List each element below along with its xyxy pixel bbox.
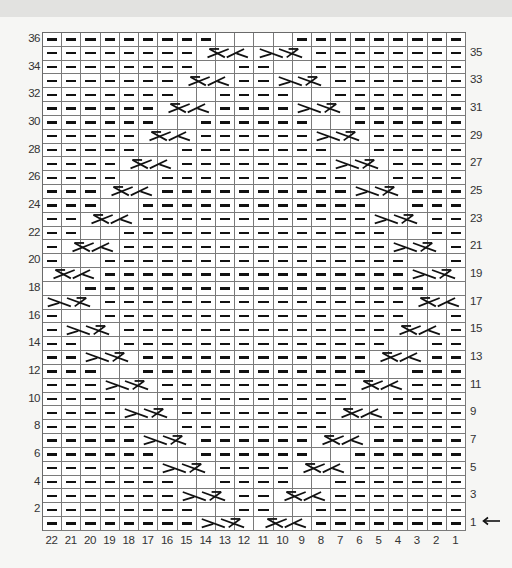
purl-cell xyxy=(120,227,139,241)
knit-cell xyxy=(370,171,389,185)
purl-cell xyxy=(331,365,350,379)
purl-cell xyxy=(139,351,158,365)
purl-cell xyxy=(101,74,120,88)
purl-cell xyxy=(120,254,139,268)
purl-cell xyxy=(331,517,350,531)
row-label: 33 xyxy=(470,73,482,85)
purl-cell xyxy=(389,420,408,434)
purl-cell xyxy=(312,199,331,213)
purl-cell xyxy=(158,337,177,351)
purl-cell xyxy=(447,47,466,61)
column-label: 1 xyxy=(446,534,465,546)
purl-cell xyxy=(254,310,273,324)
column-label: 13 xyxy=(215,534,234,546)
purl-cell xyxy=(254,144,273,158)
purl-cell xyxy=(370,61,389,75)
purl-cell xyxy=(235,420,254,434)
purl-cell xyxy=(370,282,389,296)
purl-cell xyxy=(62,88,81,102)
knit-cell xyxy=(408,310,427,324)
purl-cell xyxy=(178,503,197,517)
purl-cell xyxy=(43,310,62,324)
knit-cell xyxy=(197,503,216,517)
purl-cell xyxy=(293,420,312,434)
purl-cell xyxy=(62,517,81,531)
purl-cell xyxy=(43,337,62,351)
purl-cell xyxy=(120,61,139,75)
purl-cell xyxy=(293,171,312,185)
purl-cell xyxy=(370,47,389,61)
cable-right-cross-icon xyxy=(388,323,446,337)
purl-cell xyxy=(101,503,120,517)
knit-cell xyxy=(293,503,312,517)
column-label: 6 xyxy=(350,534,369,546)
purl-cell xyxy=(197,434,216,448)
purl-cell xyxy=(447,489,466,503)
purl-cell xyxy=(178,337,197,351)
purl-cell xyxy=(274,254,293,268)
purl-cell xyxy=(158,240,177,254)
purl-cell xyxy=(120,337,139,351)
purl-cell xyxy=(254,503,273,517)
purl-cell xyxy=(139,323,158,337)
purl-cell xyxy=(274,434,293,448)
purl-cell xyxy=(178,268,197,282)
purl-cell xyxy=(139,448,158,462)
row-label: 23 xyxy=(470,212,482,224)
purl-cell xyxy=(293,157,312,171)
cable-right-cross-icon xyxy=(254,516,312,530)
knit-cell xyxy=(274,61,293,75)
purl-cell xyxy=(120,88,139,102)
knit-cell xyxy=(139,171,158,185)
purl-cell xyxy=(101,296,120,310)
knit-cell xyxy=(62,310,81,324)
purl-cell xyxy=(254,462,273,476)
purl-cell xyxy=(408,130,427,144)
purl-cell xyxy=(293,213,312,227)
purl-cell xyxy=(235,171,254,185)
purl-cell xyxy=(216,185,235,199)
purl-cell xyxy=(351,227,370,241)
cable-right-cross-icon xyxy=(100,184,158,198)
cable-right-cross-icon xyxy=(177,74,235,88)
purl-cell xyxy=(235,323,254,337)
purl-cell xyxy=(120,489,139,503)
purl-cell xyxy=(120,102,139,116)
purl-cell xyxy=(120,310,139,324)
purl-cell xyxy=(351,199,370,213)
knit-cell xyxy=(331,448,350,462)
cable-right-cross-icon xyxy=(369,350,427,364)
purl-cell xyxy=(293,282,312,296)
purl-cell xyxy=(81,434,100,448)
purl-cell xyxy=(389,88,408,102)
purl-cell xyxy=(158,296,177,310)
purl-cell xyxy=(216,116,235,130)
cable-left-cross-icon xyxy=(369,212,427,226)
purl-cell xyxy=(81,462,100,476)
purl-cell xyxy=(274,268,293,282)
purl-cell xyxy=(62,379,81,393)
knit-cell xyxy=(274,503,293,517)
row-label: 1 xyxy=(470,516,476,528)
purl-cell xyxy=(81,185,100,199)
row-label: 13 xyxy=(470,350,482,362)
cable-right-cross-icon xyxy=(330,406,388,420)
knit-cell xyxy=(447,282,466,296)
purl-cell xyxy=(274,296,293,310)
purl-cell xyxy=(43,47,62,61)
purl-cell xyxy=(178,323,197,337)
purl-cell xyxy=(235,102,254,116)
purl-cell xyxy=(197,351,216,365)
purl-cell xyxy=(235,268,254,282)
cable-left-cross-icon xyxy=(292,101,350,115)
purl-cell xyxy=(428,462,447,476)
purl-cell xyxy=(43,406,62,420)
purl-cell xyxy=(158,185,177,199)
purl-cell xyxy=(408,33,427,47)
row-label: 32 xyxy=(20,87,40,99)
purl-cell xyxy=(389,489,408,503)
purl-cell xyxy=(216,130,235,144)
purl-cell xyxy=(101,489,120,503)
purl-cell xyxy=(428,213,447,227)
purl-cell xyxy=(370,254,389,268)
